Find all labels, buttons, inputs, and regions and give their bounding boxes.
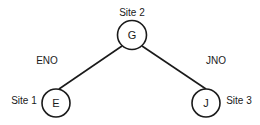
edge-label-jno: JNO — [206, 55, 226, 66]
node-g: G — [118, 21, 147, 50]
node-j: J — [192, 89, 220, 117]
node-label-g: G — [128, 29, 137, 41]
site-tree-diagram: ENO JNO G Site 2 E Site 1 J Site 3 — [0, 0, 260, 125]
edge-g-e — [59, 46, 122, 89]
edge-g-j — [142, 46, 206, 89]
site-label-2: Site 2 — [119, 7, 145, 18]
node-e: E — [42, 89, 70, 117]
site-label-3: Site 3 — [226, 95, 252, 106]
node-label-j: J — [203, 97, 209, 109]
edge-label-eno: ENO — [36, 55, 58, 66]
site-label-1: Site 1 — [11, 95, 37, 106]
node-label-e: E — [52, 97, 59, 109]
